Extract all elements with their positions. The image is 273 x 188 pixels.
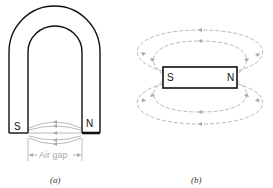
bar-magnet: [163, 67, 237, 88]
north-pole-label-b: N: [227, 73, 234, 83]
south-pole-label-b: S: [167, 73, 174, 83]
horseshoe-magnet: [9, 6, 100, 133]
air-gap-arrows: [53, 120, 57, 146]
air-gap-label: Air gap: [39, 150, 68, 160]
north-pole-label-a: N: [86, 119, 93, 129]
caption-a: (a): [50, 175, 61, 185]
south-pole-label-a: S: [14, 122, 21, 132]
caption-b: (b): [191, 175, 202, 185]
